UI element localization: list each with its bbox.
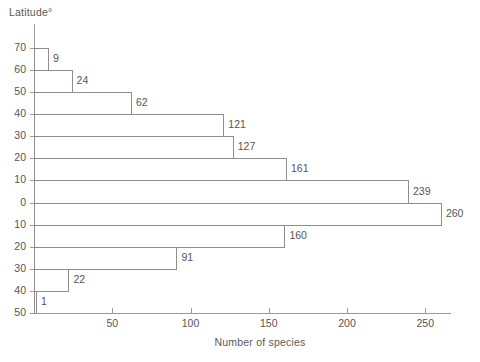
y-tick-label: 30 [0, 129, 26, 141]
bar [34, 203, 442, 226]
bar-value-label: 260 [446, 207, 464, 219]
bar [34, 70, 73, 93]
x-tick-mark [112, 308, 113, 313]
bar [34, 48, 49, 71]
bar-value-label: 160 [289, 229, 307, 241]
bar-value-label: 22 [73, 273, 85, 285]
y-tick-label: 10 [0, 218, 26, 230]
bar [34, 269, 69, 292]
x-tick-label: 50 [92, 317, 132, 329]
x-axis-line [34, 313, 451, 314]
bar-value-label: 239 [413, 185, 431, 197]
y-tick-label: 40 [0, 284, 26, 296]
bar [34, 114, 224, 137]
y-tick-label: 30 [0, 262, 26, 274]
latitude-species-bar-chart: Latitude° 7060504030201001020304050 5010… [0, 0, 480, 362]
bar [34, 136, 234, 159]
bar-value-label: 161 [291, 162, 309, 174]
bar [34, 291, 37, 314]
y-tick-label: 70 [0, 41, 26, 53]
x-axis-title-text: Number of species [215, 336, 306, 348]
y-tick-label: 0 [0, 196, 26, 208]
bar [34, 180, 409, 203]
y-tick-label: 10 [0, 173, 26, 185]
bar [34, 158, 287, 181]
x-tick-label: 200 [327, 317, 367, 329]
x-tick-label: 150 [249, 317, 289, 329]
bar-value-label: 62 [136, 96, 148, 108]
x-tick-label: 250 [405, 317, 445, 329]
bar-value-label: 9 [53, 52, 59, 64]
bar-value-label: 24 [77, 74, 89, 86]
x-tick-mark [347, 308, 348, 313]
bar-value-label: 127 [238, 140, 256, 152]
x-tick-label: 100 [171, 317, 211, 329]
x-tick-mark [191, 308, 192, 313]
y-tick-label: 60 [0, 63, 26, 75]
y-axis-title: Latitude° [9, 6, 52, 18]
y-tick-label: 50 [0, 85, 26, 97]
bar-value-label: 121 [228, 118, 246, 130]
bar [34, 92, 132, 115]
bar-value-label: 91 [181, 251, 193, 263]
bar [34, 225, 285, 248]
x-axis-title: Number of species [0, 336, 480, 348]
bar-value-label: 1 [41, 295, 47, 307]
y-tick-label: 50 [0, 306, 26, 318]
x-tick-mark [425, 308, 426, 313]
x-tick-mark [269, 308, 270, 313]
bar [34, 247, 177, 270]
y-tick-label: 20 [0, 151, 26, 163]
y-tick-label: 40 [0, 107, 26, 119]
y-tick-label: 20 [0, 240, 26, 252]
